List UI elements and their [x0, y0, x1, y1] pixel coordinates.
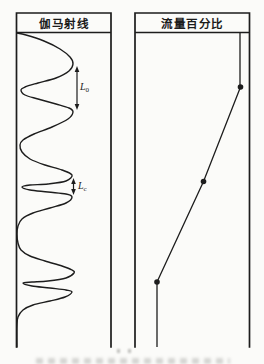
flow-data-point-1 [238, 84, 244, 90]
thin-spacing-label-sub: c [84, 185, 87, 193]
peak-spacing-label-sub: 0 [86, 86, 90, 94]
caption-remnant [36, 358, 230, 364]
flow-track-frame [135, 13, 250, 347]
figure: 伽马射线 流量百分比 L0 Lc [0, 0, 264, 364]
caption-remnant-mark [117, 349, 120, 353]
peak-spacing-arrow-head-down [75, 104, 80, 110]
flow-data-point-2 [201, 179, 207, 185]
gamma-track-header: 伽马射线 [17, 13, 111, 33]
thin-spacing-arrow-head-down [71, 189, 76, 195]
flow-track-title: 流量百分比 [161, 15, 224, 31]
figure-canvas [0, 0, 264, 364]
peak-spacing-arrow-head-up [75, 66, 80, 72]
flow-data-point-3 [154, 279, 160, 285]
flow-track-header: 流量百分比 [135, 13, 250, 33]
gamma-track-title: 伽马射线 [39, 15, 89, 31]
caption-remnant-mark [128, 349, 131, 353]
peak-spacing-label: L0 [80, 82, 89, 95]
thin-spacing-label: Lc [78, 181, 87, 194]
thin-spacing-arrow-head-up [71, 178, 76, 184]
gamma-ray-curve [17, 33, 74, 347]
flow-curve [157, 87, 241, 282]
